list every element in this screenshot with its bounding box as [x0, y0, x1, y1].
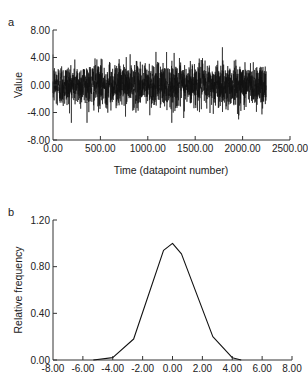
figure: a 8.004.000.00-4.00-8.00 0.00500.001000.… [0, 0, 308, 378]
x-tick-label: 4.00 [223, 363, 243, 374]
x-tick-label: 0.00 [163, 363, 183, 374]
x-tick-label: 1000.00 [130, 143, 167, 154]
panel-a-label: a [8, 16, 15, 28]
y-tick-label: 0.00 [31, 80, 51, 91]
panel-b-label: b [8, 206, 14, 218]
panel-b-x-ticks: -8.00-6.00-4.00-2.000.002.004.006.008.00 [42, 356, 303, 374]
y-tick-label: 1.20 [31, 215, 51, 226]
panel-b-y-axis-title: Relative frequency [12, 246, 24, 334]
x-tick-label: 1500.00 [177, 143, 214, 154]
y-tick-label: 8.00 [31, 25, 51, 36]
y-tick-label: 4.00 [31, 52, 51, 63]
x-tick-label: 2000.00 [225, 143, 262, 154]
signal-line [53, 47, 266, 123]
x-tick-label: -4.00 [101, 363, 124, 374]
x-tick-label: -8.00 [42, 363, 65, 374]
panel-a-y-axis-title: Value [12, 72, 24, 98]
panel-a-x-axis-title: Time (datapoint number) [114, 164, 229, 176]
x-tick-label: 2.00 [193, 363, 213, 374]
y-tick-label: -4.00 [27, 107, 50, 118]
panel-a-x-ticks: 0.00500.001000.001500.002000.002500.00 [43, 136, 308, 154]
x-tick-label: -2.00 [131, 363, 154, 374]
x-tick-label: 0.00 [43, 143, 63, 154]
x-tick-label: 6.00 [252, 363, 272, 374]
y-tick-label: 0.40 [31, 308, 51, 319]
panel-a-chart: a 8.004.000.00-4.00-8.00 0.00500.001000.… [8, 16, 308, 176]
x-tick-label: 8.00 [282, 363, 302, 374]
panel-b-chart: b 1.200.800.400.00 -8.00-6.00-4.00-2.000… [8, 206, 302, 374]
panel-b-series [93, 243, 241, 360]
x-tick-label: -6.00 [71, 363, 94, 374]
x-tick-label: 2500.00 [272, 143, 308, 154]
x-tick-label: 500.00 [85, 143, 116, 154]
distribution-line [93, 243, 241, 360]
panel-a-series [53, 47, 266, 123]
y-tick-label: 0.80 [31, 261, 51, 272]
